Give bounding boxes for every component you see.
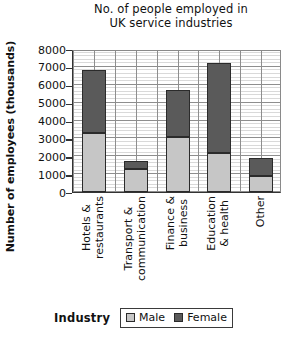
bar-segment-female[interactable]	[207, 63, 231, 152]
y-tick-label: 3000	[20, 134, 66, 145]
bar-segment-male[interactable]	[82, 133, 106, 192]
x-tick-label: Other	[254, 196, 267, 227]
male-swatch-icon	[126, 313, 135, 322]
chart-title-line-2: UK service industries	[60, 16, 282, 30]
bar-segment-male[interactable]	[124, 169, 148, 192]
x-tick-label-slot: Finance &business	[156, 196, 198, 296]
bar-segment-female[interactable]	[82, 70, 106, 133]
legend-label-female: Female	[187, 311, 227, 324]
bar-group[interactable]	[249, 50, 273, 192]
bar-segment-male[interactable]	[166, 137, 190, 192]
x-tick-label: Transport &communication	[122, 196, 148, 281]
legend-item-male: Male	[126, 311, 165, 324]
plot-area	[72, 50, 281, 193]
x-axis-title: Industry	[54, 311, 110, 325]
legend-row: Industry Male Female	[0, 306, 287, 330]
y-tick-label: 2000	[20, 152, 66, 163]
y-tick-label: 6000	[20, 80, 66, 91]
x-tick-label-slot: Hotels &restaurants	[72, 196, 114, 296]
x-tick-label-slot: Other	[239, 196, 281, 296]
bar-segment-male[interactable]	[249, 176, 273, 192]
legend: Male Female	[120, 308, 233, 328]
y-tick-label: 7000	[20, 62, 66, 73]
x-tick-label: Education& health	[205, 196, 231, 251]
bar-segment-female[interactable]	[166, 90, 190, 136]
bars-container	[73, 51, 280, 192]
female-swatch-icon	[174, 313, 183, 322]
bar-group[interactable]	[82, 50, 106, 192]
bar-segment-female[interactable]	[249, 158, 273, 176]
y-axis-tick-labels: 010002000300040005000600070008000	[18, 50, 66, 193]
y-tick-label: 5000	[20, 98, 66, 109]
x-tick-label: Hotels &restaurants	[80, 196, 106, 259]
y-tick-label: 4000	[20, 116, 66, 127]
x-tick-label-slot: Transport &communication	[114, 196, 156, 296]
y-tick-label: 0	[20, 188, 66, 199]
bar-segment-female[interactable]	[124, 161, 148, 169]
y-axis-title-container: Number of employees (thousands)	[0, 35, 20, 265]
y-tick-label: 8000	[20, 45, 66, 56]
bar-group[interactable]	[207, 50, 231, 192]
legend-item-female: Female	[174, 311, 227, 324]
bar-segment-male[interactable]	[207, 153, 231, 192]
x-tick-label: Finance &business	[164, 196, 190, 250]
bar-group[interactable]	[166, 50, 190, 192]
legend-label-male: Male	[139, 311, 165, 324]
y-tick-label: 1000	[20, 170, 66, 181]
x-tick-label-slot: Education& health	[197, 196, 239, 296]
chart-title-line-1: No. of people employed in	[60, 2, 282, 16]
bar-chart: No. of people employed in UK service ind…	[0, 0, 287, 337]
y-tick-mark	[66, 193, 72, 194]
y-axis-title: Number of employees (thousands)	[4, 32, 17, 262]
chart-title: No. of people employed in UK service ind…	[60, 2, 282, 30]
bar-group[interactable]	[124, 50, 148, 192]
x-axis-tick-labels: Hotels &restaurantsTransport &communicat…	[72, 196, 281, 296]
